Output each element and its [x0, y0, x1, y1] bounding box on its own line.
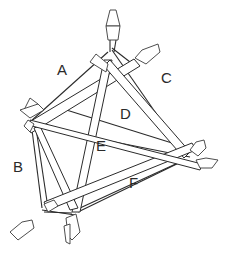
struts — [26, 59, 202, 212]
upper-right-end-cap — [135, 44, 160, 64]
bottom-left-loose-end-cap — [10, 220, 34, 240]
label-d: D — [120, 106, 131, 121]
label-b: B — [13, 159, 23, 174]
label-f: F — [129, 175, 138, 190]
top-end-cap — [106, 10, 120, 26]
upper-left-end-cap — [90, 54, 108, 72]
structure-drawing — [0, 0, 227, 255]
right-upper-end-cap — [190, 140, 206, 156]
label-a: A — [57, 62, 67, 77]
tensegrity-diagram: A B C D E F — [0, 0, 227, 255]
label-e: E — [96, 138, 106, 153]
right-lower-end-cap — [196, 158, 218, 168]
label-c: C — [161, 70, 172, 85]
